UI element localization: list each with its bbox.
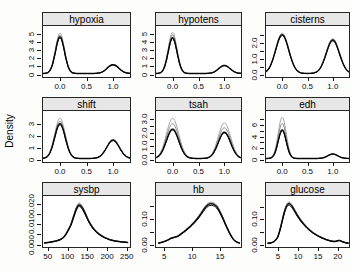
y-tick (260, 154, 264, 155)
y-tick (260, 219, 264, 220)
panel-title-cisterns: cisterns (290, 14, 324, 25)
x-tick (298, 247, 299, 251)
x-tick-label: 50 (43, 252, 52, 261)
x-tick-label: 1.0 (327, 167, 338, 176)
strip-hypotens: hypotens (156, 13, 241, 26)
x-tick (333, 162, 334, 166)
strip-cisterns: cisterns (266, 13, 349, 26)
panel-tsah: tsah (155, 97, 242, 163)
y-tick (150, 126, 154, 127)
x-tick (87, 162, 88, 166)
panel-title-glucose: glucose (290, 184, 324, 195)
imputed-density-curve (43, 35, 130, 73)
x-tick (192, 247, 193, 251)
y-tick-label: 3 (27, 48, 36, 52)
panel-edh: edh (265, 97, 350, 163)
y-tick (150, 245, 154, 246)
x-tick-label: 0.5 (302, 82, 313, 91)
y-tick-label: 4 (140, 40, 149, 44)
y-tick-label: 0.10 (250, 211, 259, 227)
density-curves-glucose (266, 196, 349, 246)
y-axis-title: Density (4, 114, 15, 147)
x-tick-label: 0.0 (167, 167, 178, 176)
density-curves-hypotens (156, 26, 241, 76)
imputed-density-curve (45, 204, 128, 243)
panel-title-sysbp: sysbp (73, 184, 99, 195)
panel-title-hypoxia: hypoxia (69, 14, 103, 25)
y-tick-label: 0 (140, 72, 149, 76)
imputed-density-curve (268, 203, 348, 243)
y-tick-label: 2 (27, 134, 36, 138)
x-tick-label: 1.0 (107, 167, 118, 176)
y-tick-label: 5 (27, 32, 36, 36)
x-tick-label: 15 (215, 252, 224, 261)
plot-glucose (266, 196, 349, 246)
x-tick (113, 77, 114, 81)
panel-title-hypotens: hypotens (178, 14, 219, 25)
y-tick (37, 58, 41, 59)
panel-sysbp: sysbp (42, 182, 131, 248)
y-tick (260, 43, 264, 44)
y-tick (260, 245, 264, 246)
y-tick-label: 1.0 (140, 141, 149, 152)
density-curves-hb (156, 196, 241, 246)
imputed-density-curve (159, 205, 240, 243)
plot-hypoxia (43, 26, 130, 76)
y-tick (37, 160, 41, 161)
panel-title-hb: hb (193, 184, 204, 195)
x-tick (282, 162, 283, 166)
x-tick (282, 77, 283, 81)
y-tick-label: 2.0 (140, 127, 149, 138)
x-tick-label: 0.0 (277, 82, 288, 91)
panel-hb: hb (155, 182, 242, 248)
y-tick (260, 119, 264, 120)
x-tick-label: 1.0 (219, 82, 230, 91)
y-tick-label: 2 (27, 56, 36, 60)
x-tick (333, 77, 334, 81)
x-tick-label: 20 (333, 252, 342, 261)
imputed-density-curve (266, 36, 349, 74)
x-tick (199, 77, 200, 81)
density-curves-edh (266, 111, 349, 161)
y-tick (37, 148, 41, 149)
y-tick-label: 0.020 (27, 194, 36, 214)
x-tick (220, 247, 221, 251)
y-tick (150, 139, 154, 140)
observed-density-curve (43, 37, 130, 74)
y-tick (37, 136, 41, 137)
imputed-density-curve (43, 118, 130, 158)
y-tick-label: 0.00 (250, 237, 259, 253)
strip-glucose: glucose (266, 183, 349, 196)
y-tick (150, 160, 154, 161)
panel-glucose: glucose (265, 182, 350, 248)
plot-edh (266, 111, 349, 161)
x-tick-label: 10 (188, 252, 197, 261)
y-tick (150, 119, 154, 120)
x-tick (164, 247, 165, 251)
y-tick (37, 42, 41, 43)
panel-hypotens: hypotens (155, 12, 242, 78)
y-tick (37, 234, 41, 235)
x-tick (318, 247, 319, 251)
x-tick-label: 0.5 (81, 167, 92, 176)
y-tick (260, 160, 264, 161)
y-tick (37, 124, 41, 125)
imputed-density-curve (43, 33, 130, 73)
y-tick (260, 207, 264, 208)
plot-tsah (156, 111, 241, 161)
y-tick (37, 224, 41, 225)
y-tick (37, 66, 41, 67)
y-tick (150, 75, 154, 76)
x-tick (173, 162, 174, 166)
y-tick-label: 0 (27, 72, 36, 76)
x-tick (278, 247, 279, 251)
y-tick-label: 3.0 (140, 114, 149, 125)
observed-density-curve (268, 204, 348, 244)
density-curves-shift (43, 111, 130, 161)
y-tick-label: 3 (27, 122, 36, 126)
strip-hypoxia: hypoxia (43, 13, 130, 26)
plot-hypotens (156, 26, 241, 76)
y-tick (260, 35, 264, 36)
x-tick (60, 162, 61, 166)
x-tick-label: 0.0 (54, 167, 65, 176)
